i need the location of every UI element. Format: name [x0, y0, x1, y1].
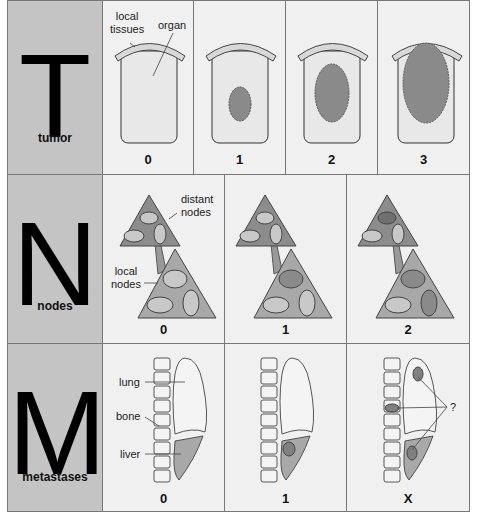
lung-label: lung — [119, 376, 140, 389]
lymph-nodes-icon — [347, 175, 472, 345]
nodes-header: N nodes — [8, 175, 103, 343]
stage-label: 0 — [103, 322, 224, 337]
t-stage-2: 2 — [286, 1, 378, 174]
liver-label: liver — [120, 448, 140, 461]
tumor-icon — [378, 1, 474, 176]
m-stage-x: ? X — [347, 344, 469, 511]
tumor-label: tumor — [8, 131, 102, 145]
t-stage-3: 3 — [378, 1, 469, 174]
local-nodes-label: local nodes — [111, 265, 141, 291]
m-stage-0: lung bone liver 0 — [103, 344, 225, 511]
stage-label: 2 — [347, 322, 469, 337]
stage-label: 0 — [103, 491, 224, 506]
stage-label: 1 — [225, 322, 346, 337]
body-organs-icon — [103, 344, 224, 513]
t-stage-1: 1 — [194, 1, 286, 174]
stage-label: 0 — [103, 152, 193, 167]
unknown-site-label: ? — [450, 401, 456, 414]
body-organs-icon — [225, 344, 346, 513]
stage-label: X — [347, 491, 469, 506]
stage-label: 2 — [286, 152, 377, 167]
organ-label: organ — [158, 19, 186, 32]
tumor-icon — [286, 1, 377, 176]
tumor-row: T tumor local tissues organ 0 1 2 3 — [7, 0, 470, 175]
tumor-icon — [194, 1, 285, 176]
distant-nodes-label: distant nodes — [181, 193, 213, 219]
n-stage-2: 2 — [347, 175, 469, 343]
t-stage-0: local tissues organ 0 — [103, 1, 194, 174]
body-organs-icon — [347, 344, 472, 513]
metastases-row: M metastases lung bone liver 0 1 — [7, 343, 470, 512]
stage-label: 1 — [225, 491, 346, 506]
m-stage-1: 1 — [225, 344, 347, 511]
lymph-nodes-icon — [225, 175, 346, 345]
metastases-label: metastases — [8, 470, 102, 484]
metastases-header: M metastases — [8, 344, 103, 511]
n-stage-0: distant nodes local nodes 0 — [103, 175, 225, 343]
stage-label: 1 — [194, 152, 285, 167]
bone-label: bone — [116, 410, 140, 423]
nodes-label: nodes — [8, 299, 102, 313]
nodes-row: N nodes distant nodes local nodes 0 1 2 — [7, 174, 470, 344]
local-tissues-label: local tissues — [110, 10, 144, 36]
stage-label: 3 — [378, 152, 469, 167]
tumor-header: T tumor — [8, 1, 103, 174]
n-stage-1: 1 — [225, 175, 347, 343]
